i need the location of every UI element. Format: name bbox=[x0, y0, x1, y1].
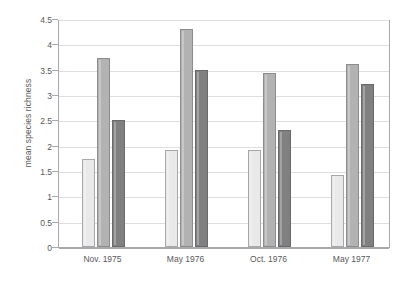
x-tick-label: May 1977 bbox=[333, 254, 370, 264]
plot-area bbox=[58, 20, 390, 248]
y-tick-label: 2.5 bbox=[12, 116, 52, 126]
y-tick-label: 4.5 bbox=[12, 15, 52, 25]
x-tick-label: Nov. 1975 bbox=[83, 254, 121, 264]
bar bbox=[331, 175, 344, 247]
bar bbox=[180, 29, 193, 247]
bar bbox=[248, 150, 261, 247]
gridline bbox=[59, 45, 389, 46]
y-tick-label: 0 bbox=[12, 243, 52, 253]
bar bbox=[97, 58, 110, 247]
y-tick-label: 1 bbox=[12, 192, 52, 202]
y-tick-label: 3.5 bbox=[12, 66, 52, 76]
bar bbox=[361, 84, 374, 247]
x-tick-label: May 1976 bbox=[167, 254, 204, 264]
bar bbox=[263, 73, 276, 247]
y-tick-label: 4 bbox=[12, 40, 52, 50]
bar bbox=[346, 64, 359, 247]
y-tick-label: 2 bbox=[12, 142, 52, 152]
gridline bbox=[59, 20, 389, 21]
bar bbox=[278, 130, 291, 247]
x-tick-label: Oct. 1976 bbox=[250, 254, 287, 264]
y-tick-label: 1.5 bbox=[12, 167, 52, 177]
gridline bbox=[59, 248, 389, 249]
bar bbox=[82, 159, 95, 247]
bar bbox=[165, 150, 178, 247]
y-tick-label: 3 bbox=[12, 91, 52, 101]
bar bbox=[195, 70, 208, 247]
y-tick-label: 0.5 bbox=[12, 218, 52, 228]
bar bbox=[112, 120, 125, 247]
bar-chart: mean species richness 00.511.522.533.544… bbox=[0, 0, 405, 283]
